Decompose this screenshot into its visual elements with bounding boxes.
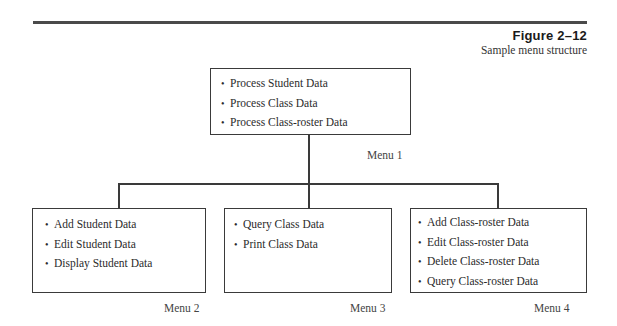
menu-2-label: Menu 2	[164, 302, 199, 314]
menu-1-item: Process Class Data	[221, 94, 410, 114]
menu-3-item: Query Class Data	[234, 215, 391, 235]
connector-horizontal	[118, 183, 499, 185]
menu-2-item: Display Student Data	[45, 254, 205, 274]
connector-vertical-main	[308, 135, 310, 209]
menu-1-box: Process Student Data Process Class Data …	[210, 68, 411, 135]
menu-1-item: Process Class-roster Data	[221, 113, 410, 133]
menu-4-item: Delete Class-roster Data	[418, 252, 586, 272]
menu-4-item: Add Class-roster Data	[418, 213, 586, 233]
menu-2-item: Edit Student Data	[45, 235, 205, 255]
menu-3-item: Print Class Data	[234, 235, 391, 255]
menu-4-label: Menu 4	[534, 302, 569, 314]
menu-1-label: Menu 1	[367, 149, 402, 161]
top-rule	[33, 21, 587, 24]
menu-4-items: Add Class-roster Data Edit Class-roster …	[418, 213, 586, 291]
connector-to-menu-2	[118, 183, 120, 209]
menu-1-item: Process Student Data	[221, 74, 410, 94]
menu-4-box: Add Class-roster Data Edit Class-roster …	[410, 208, 587, 293]
menu-2-box: Add Student Data Edit Student Data Displ…	[32, 208, 206, 293]
menu-1-items: Process Student Data Process Class Data …	[221, 74, 410, 133]
menu-3-items: Query Class Data Print Class Data	[234, 215, 391, 254]
menu-2-items: Add Student Data Edit Student Data Displ…	[45, 215, 205, 274]
menu-4-item: Query Class-roster Data	[418, 272, 586, 292]
menu-3-box: Query Class Data Print Class Data	[224, 208, 392, 293]
connector-to-menu-4	[497, 183, 499, 209]
figure-number: Figure 2–12	[513, 28, 587, 43]
figure-caption: Sample menu structure	[481, 44, 587, 56]
menu-4-item: Edit Class-roster Data	[418, 233, 586, 253]
menu-3-label: Menu 3	[350, 302, 385, 314]
menu-2-item: Add Student Data	[45, 215, 205, 235]
